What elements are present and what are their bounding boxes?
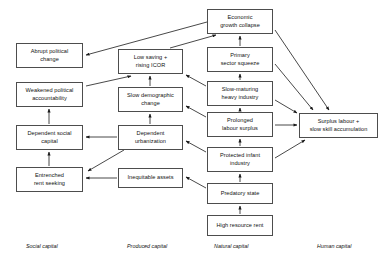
edge-primary-sector-squeeze-to-surplus-labour-slow-skill-accumulation xyxy=(275,64,313,110)
edge-protected-infant-industry-to-surplus-labour-slow-skill-accumulation xyxy=(275,140,305,158)
column-label-produced-capital: Produced capital xyxy=(127,243,167,249)
edge-economic-growth-collapse-to-surplus-labour-slow-skill-accumulation xyxy=(275,30,329,110)
edge-predatory-state-to-inequitable-assets xyxy=(186,177,206,188)
node-prolonged-labour-surplus[interactable]: Prolonged labour surplus xyxy=(207,112,273,137)
node-economic-growth-collapse[interactable]: Economic growth collapse xyxy=(207,9,273,34)
node-protected-infant-industry[interactable]: Protected infant industry xyxy=(207,147,273,172)
edge-weakened-political-accountability-to-low-saving-rising-icor xyxy=(86,76,131,86)
column-label-social-capital: Social capital xyxy=(26,243,58,249)
edge-slow-maturing-heavy-industry-to-low-saving-rising-icor xyxy=(186,75,206,86)
node-dependent-social-capital[interactable]: Dependent social capital xyxy=(16,125,83,150)
edge-protected-infant-industry-to-dependent-urbanization xyxy=(186,141,206,152)
node-slow-maturing-heavy-industry[interactable]: Slow-maturing heavy industry xyxy=(207,81,273,106)
node-primary-sector-squeeze[interactable]: Primary sector squeeze xyxy=(207,47,273,72)
column-label-natural-capital: Natural capital xyxy=(214,243,248,249)
node-low-saving-rising-icor[interactable]: Low saving + rising ICOR xyxy=(118,49,183,74)
node-predatory-state[interactable]: Predatory state xyxy=(207,183,273,204)
node-dependent-urbanization[interactable]: Dependent urbanization xyxy=(118,125,183,150)
node-abrupt-political-change[interactable]: Abrupt political change xyxy=(16,43,83,68)
node-inequitable-assets[interactable]: Inequitable assets xyxy=(118,168,183,188)
column-label-human-capital: Human capital xyxy=(317,243,351,249)
node-weakened-political-accountability[interactable]: Weakened political accountability xyxy=(16,82,83,107)
node-entrenched-rent-seeking[interactable]: Entrenched rent seeking xyxy=(16,167,83,192)
edge-slow-maturing-heavy-industry-to-surplus-labour-slow-skill-accumulation xyxy=(275,100,297,113)
edge-group xyxy=(49,22,329,214)
flow-diagram: Economic growth collapseAbrupt political… xyxy=(0,0,382,264)
node-slow-demographic-change[interactable]: Slow demographic change xyxy=(118,87,183,112)
node-high-resource-rent[interactable]: High resource rent xyxy=(207,215,273,236)
node-surplus-labour-slow-skill-accumulation[interactable]: Surplus labour + slow skill accumulation xyxy=(299,113,378,138)
edge-prolonged-labour-surplus-to-slow-demographic-change xyxy=(186,106,206,117)
